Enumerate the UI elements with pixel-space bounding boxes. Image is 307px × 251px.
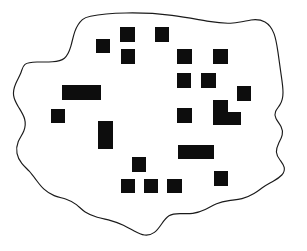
building-19 bbox=[144, 179, 158, 193]
building-10 bbox=[62, 85, 101, 100]
building-9 bbox=[237, 86, 251, 101]
building-17 bbox=[214, 171, 228, 186]
building-13 bbox=[98, 121, 113, 149]
building-4 bbox=[155, 27, 169, 42]
building-5 bbox=[177, 49, 192, 64]
building-12 bbox=[177, 108, 192, 123]
settlement-outline-path bbox=[13, 13, 284, 235]
building-20 bbox=[167, 179, 182, 193]
boundary-layer bbox=[13, 13, 284, 235]
sketch-map-figure bbox=[0, 0, 307, 251]
building-3 bbox=[121, 49, 135, 64]
building-11 bbox=[51, 109, 65, 123]
building-1 bbox=[96, 39, 110, 53]
building-6 bbox=[213, 49, 228, 64]
building-7 bbox=[177, 73, 191, 88]
building-15 bbox=[178, 145, 214, 159]
building-16 bbox=[132, 157, 146, 172]
building-8 bbox=[201, 73, 216, 88]
building-2 bbox=[120, 27, 135, 42]
building-18 bbox=[121, 179, 135, 193]
map-canvas bbox=[0, 0, 307, 251]
